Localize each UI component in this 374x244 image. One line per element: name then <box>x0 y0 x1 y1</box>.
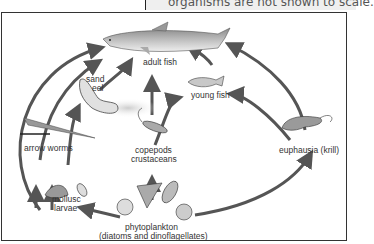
young-fish-icon <box>188 76 224 87</box>
label-arrow-worms: arrow worms <box>24 144 73 153</box>
label-phytoplankton-2: (diatoms and dinoflagellates) <box>99 232 208 241</box>
label-krill: euphausia (krill) <box>279 146 339 155</box>
label-copepods-2: crustaceans <box>131 155 177 164</box>
label-mollusc-2: larvae <box>54 204 77 213</box>
label-young-fish: young fish <box>191 91 230 100</box>
label-adult-fish: adult fish <box>143 58 177 67</box>
phytoplankton-icon <box>117 179 192 220</box>
krill-icon <box>282 115 332 130</box>
arrow-worm-icon <box>20 118 95 138</box>
shark-icon <box>103 22 230 55</box>
label-sand-eel-2: eel <box>92 84 103 93</box>
